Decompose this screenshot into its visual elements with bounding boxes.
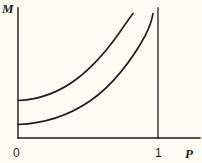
- chart-plot-area: [0, 0, 202, 163]
- curves-group: [18, 14, 153, 125]
- x-tick-label-origin: 0: [13, 147, 20, 159]
- axes-group: [18, 8, 200, 138]
- upper-curve-path: [18, 14, 133, 101]
- x-tick-label-one: 1: [155, 147, 162, 159]
- chart-figure: M P 0 1: [0, 0, 202, 163]
- lower-curve-path: [18, 14, 153, 125]
- x-axis-label: P: [185, 147, 193, 160]
- y-axis-label: M: [2, 2, 14, 15]
